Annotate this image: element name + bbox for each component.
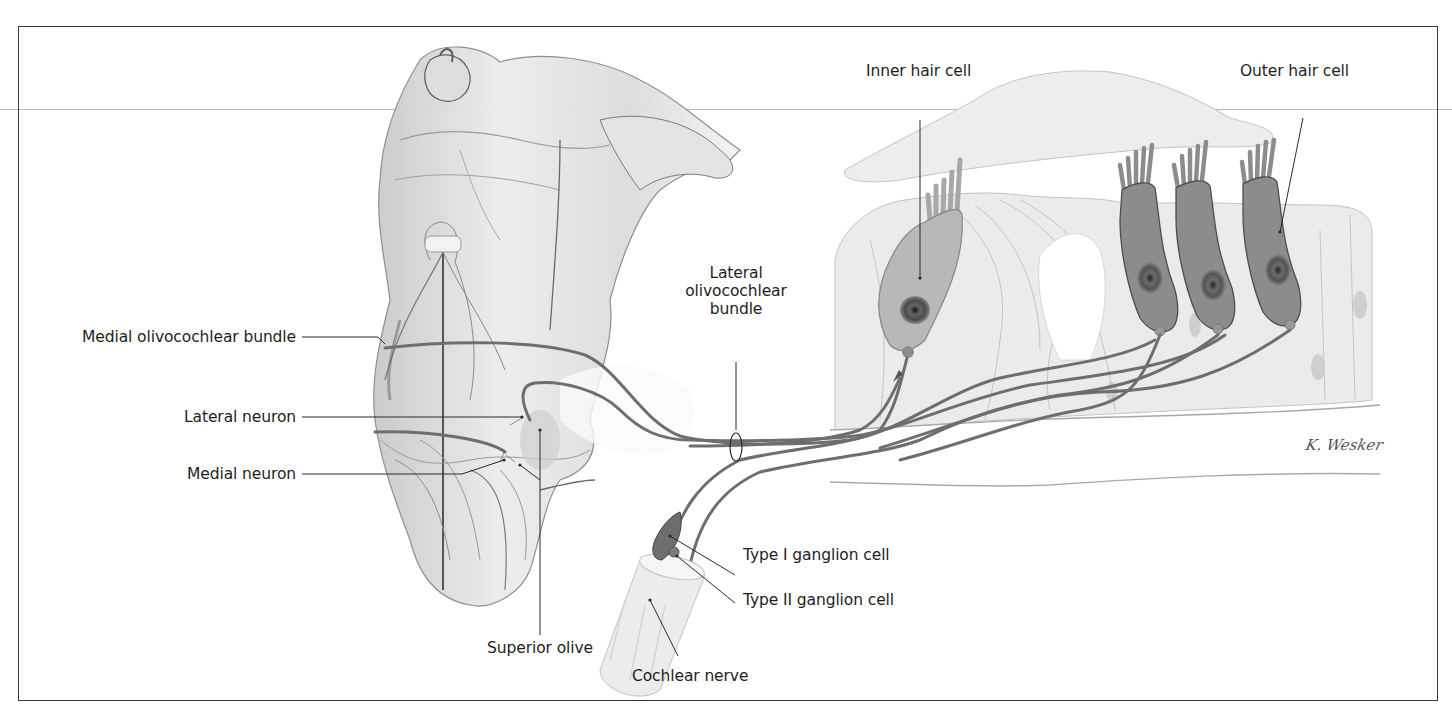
artist-signature: K. Wesker (1304, 436, 1384, 454)
label-lateral-olivocochlear-bundle-line-2: olivocochlear (676, 282, 796, 300)
label-lateral-olivocochlear-bundle-line-3: bundle (676, 300, 796, 318)
label-type-i-ganglion-cell: Type I ganglion cell (743, 546, 890, 564)
label-type-ii-ganglion-cell: Type II ganglion cell (743, 591, 894, 609)
brainstem (374, 47, 740, 606)
label-lateral-olivocochlear-bundle: Lateral olivocochlear bundle (676, 264, 796, 318)
label-medial-neuron: Medial neuron (100, 465, 296, 483)
label-cochlear-nerve: Cochlear nerve (632, 667, 748, 685)
label-inner-hair-cell: Inner hair cell (866, 62, 971, 80)
bundle-marker (730, 433, 742, 461)
label-lateral-neuron: Lateral neuron (100, 408, 296, 426)
label-medial-olivocochlear-bundle: Medial olivocochlear bundle (40, 328, 296, 346)
label-outer-hair-cell: Outer hair cell (1240, 62, 1349, 80)
anatomy-illustration (0, 0, 1452, 713)
tectorial-membrane (844, 71, 1272, 182)
figure-canvas: Medial olivocochlear bundle Lateral neur… (0, 0, 1452, 713)
outer-hair-cells (1120, 140, 1301, 336)
label-superior-olive: Superior olive (470, 639, 610, 657)
label-lateral-olivocochlear-bundle-line-1: Lateral (676, 264, 796, 282)
